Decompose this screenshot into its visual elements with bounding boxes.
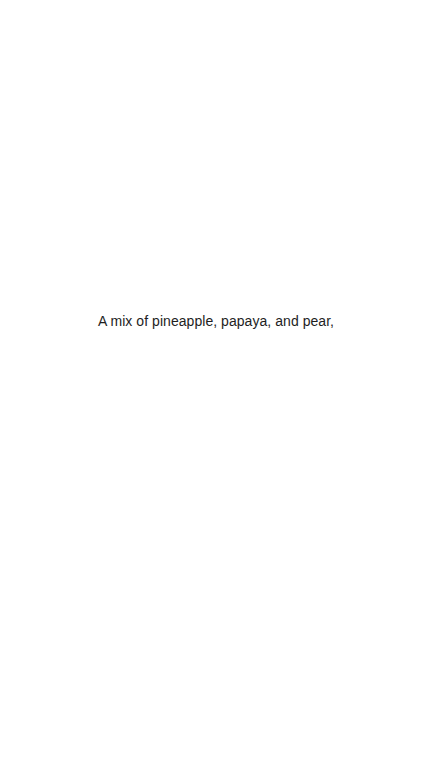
page-canvas: A mix of pineapple, papaya, and pear,	[0, 0, 432, 769]
caption-text: A mix of pineapple, papaya, and pear,	[98, 310, 334, 332]
caption-block: A mix of pineapple, papaya, and pear,	[0, 310, 432, 332]
